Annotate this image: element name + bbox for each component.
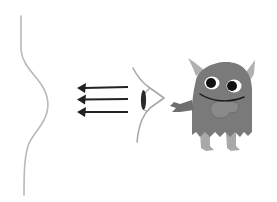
illustration-canvas: Cartoon monster looking via an eye; thre… [0,0,277,202]
monster-character [170,58,255,151]
monster-arm [170,100,194,112]
arrows-group [77,83,128,117]
eye-icon [133,68,164,142]
arrow-icon [77,107,128,117]
wave-line [21,16,48,195]
arrow-icon [77,95,128,105]
monster-body [192,62,252,137]
arrow-icon [77,83,128,93]
